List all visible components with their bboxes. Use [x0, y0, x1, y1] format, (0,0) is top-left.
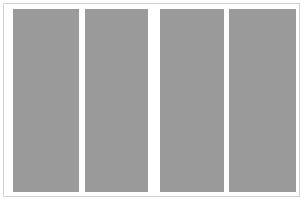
placeholder-column-2 [85, 9, 148, 192]
column-gutter-center [148, 9, 160, 192]
placeholder-columns-row [13, 9, 296, 192]
placeholder-column-4 [229, 9, 296, 192]
placeholder-column-3 [160, 9, 224, 192]
screenshot-canvas [0, 0, 307, 204]
placeholder-column-1 [13, 9, 79, 192]
no-text-content [0, 0, 1, 1]
